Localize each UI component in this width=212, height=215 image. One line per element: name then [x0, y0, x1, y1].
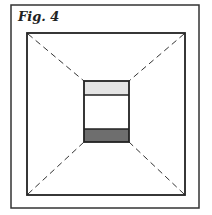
inner-square	[27, 33, 185, 195]
diagram	[0, 0, 212, 215]
bottom-band	[84, 129, 129, 142]
diagonal-dashed-lines	[28, 34, 184, 194]
top-band	[84, 81, 129, 95]
outer-frame	[11, 5, 199, 208]
figure-caption: Fig. 4	[18, 9, 59, 24]
